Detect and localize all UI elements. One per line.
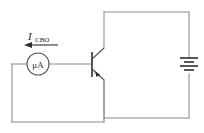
- circuit-diagram-figure: μA I CBO: [0, 0, 204, 133]
- circuit-schematic-svg: μA I CBO: [0, 0, 204, 133]
- transistor-collector-lead: [92, 48, 104, 59]
- current-subscript-label: CBO: [35, 36, 49, 44]
- microammeter-label: μA: [32, 60, 44, 70]
- current-symbol-label: I: [27, 30, 33, 42]
- current-arrow-head: [24, 42, 32, 48]
